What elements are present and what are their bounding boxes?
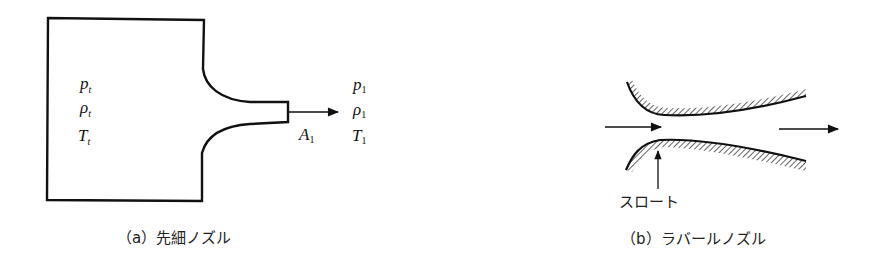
label-p-t: pt	[79, 74, 92, 95]
nozzle-figure: pt ρt Tt A1 p1 ρ1 T1 （a）先細ノズル スロート （b）ラバ…	[0, 0, 876, 267]
caption-b: （b）ラバールノズル	[621, 230, 766, 248]
label-T-t: Tt	[78, 126, 90, 147]
lower-wall-hatch	[626, 140, 806, 172]
label-rho-t: ρt	[79, 98, 91, 119]
label-T-1: T1	[352, 126, 366, 146]
caption-a: （a）先細ノズル	[117, 229, 231, 247]
laval-nozzle-diagram: スロート （b）ラバールノズル	[605, 80, 838, 248]
upper-wall-hatch	[627, 80, 806, 115]
label-A-1: A1	[298, 125, 314, 145]
label-p-1: p1	[352, 75, 367, 95]
throat-label: スロート	[619, 193, 679, 211]
convergent-nozzle-diagram: pt ρt Tt A1 p1 ρ1 T1 （a）先細ノズル	[47, 18, 367, 247]
label-rho-1: ρ1	[352, 100, 366, 120]
